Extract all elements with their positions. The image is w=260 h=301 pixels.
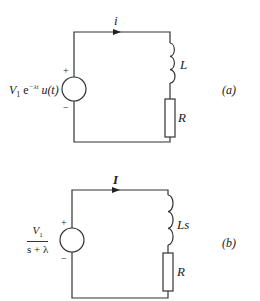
plus-sign-a: + bbox=[63, 66, 69, 76]
resistor-b bbox=[163, 253, 173, 291]
inductor-label-a: L bbox=[180, 58, 187, 71]
minus-sign-a: − bbox=[63, 103, 69, 113]
resistor-label-b: R bbox=[177, 265, 185, 278]
inductor-label-b: Ls bbox=[177, 218, 189, 231]
source-label-b-sub: 1 bbox=[39, 231, 43, 239]
current-label-a: i bbox=[114, 14, 118, 27]
source-label-a-u: u(t) bbox=[38, 83, 58, 97]
inductor-a bbox=[170, 43, 175, 83]
resistor-a bbox=[165, 99, 175, 137]
circuit-a-wires bbox=[74, 32, 170, 142]
figure-tag-b: (b) bbox=[222, 237, 236, 249]
resistor-label-a: R bbox=[178, 111, 186, 124]
circuit-drawing bbox=[0, 0, 260, 301]
voltage-source-a bbox=[62, 77, 86, 101]
plus-sign-b: + bbox=[61, 218, 67, 228]
figure-tag-a: (a) bbox=[222, 84, 236, 96]
source-label-a: V1 e−λt u(t) bbox=[9, 84, 59, 99]
source-label-b-denominator: s + λ bbox=[27, 242, 48, 255]
source-label-a-e: e bbox=[20, 83, 28, 97]
current-label-b: I bbox=[113, 173, 118, 186]
source-label-b-numerator: V1 bbox=[27, 225, 48, 242]
current-arrow-b bbox=[112, 187, 120, 193]
source-label-a-exp: −λt bbox=[29, 83, 39, 91]
source-label-b: V1 s + λ bbox=[27, 225, 48, 255]
current-arrow-a bbox=[113, 29, 121, 35]
circuit-b-wires bbox=[72, 190, 168, 298]
inductor-b bbox=[168, 195, 173, 245]
minus-sign-b: − bbox=[61, 254, 67, 264]
voltage-source-b bbox=[60, 228, 84, 252]
